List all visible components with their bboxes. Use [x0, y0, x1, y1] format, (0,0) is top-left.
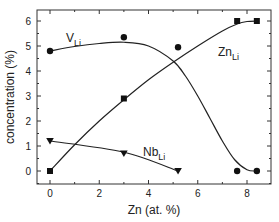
zn-li-marker	[234, 18, 240, 24]
zn-li-marker	[254, 18, 260, 24]
y-tick-label: 4	[25, 66, 31, 77]
v-li-marker	[121, 34, 127, 40]
x-axis-label: Zn (at. %)	[128, 203, 181, 217]
y-tick-label: 5	[25, 41, 31, 52]
v-li-marker	[234, 168, 240, 174]
series-labels: VLiZnLiNbLi	[66, 31, 239, 162]
nb-li-marker	[120, 151, 128, 158]
y-tick-label: 3	[25, 91, 31, 102]
v-li-marker	[254, 168, 260, 174]
y-tick-label: 2	[25, 116, 31, 127]
x-tick-label: 0	[47, 188, 53, 199]
v-li-marker	[175, 44, 181, 50]
y-tick-label: 6	[25, 16, 31, 27]
x-tick-label: 2	[96, 188, 102, 199]
zn-li-marker	[121, 96, 127, 102]
chart: 012345602468 VLiZnLiNbLi Zn (at. %) conc…	[0, 0, 279, 222]
x-tick-label: 6	[195, 188, 201, 199]
v-li-marker	[47, 48, 53, 54]
x-tick-label: 8	[244, 188, 250, 199]
v-li-label: VLi	[66, 31, 81, 48]
y-tick-label: 0	[25, 166, 31, 177]
y-axis-label: concentration (%)	[3, 50, 17, 144]
x-tick-label: 4	[146, 188, 152, 199]
nb-li-marker	[174, 168, 182, 175]
y-tick-label: 1	[25, 141, 31, 152]
zn-li-marker	[47, 168, 53, 174]
zn-li-label: ZnLi	[218, 45, 239, 62]
